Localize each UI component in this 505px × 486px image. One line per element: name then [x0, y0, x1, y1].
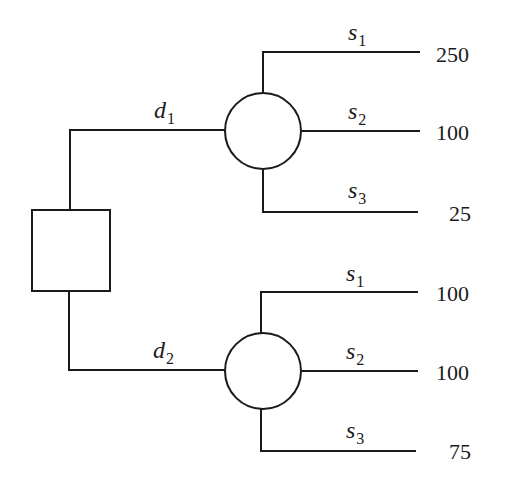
- state-label-2-s1: s1: [346, 261, 364, 285]
- payoff-2-s2: 100: [436, 362, 469, 384]
- state-label-2-s3: s3: [346, 418, 364, 442]
- decision-label-d1: d1: [154, 98, 175, 122]
- state-symbol: s: [346, 417, 355, 443]
- payoff-1-s1: 250: [436, 44, 469, 66]
- outcome-line-2-s3: [261, 409, 416, 451]
- chance-node-1: [225, 93, 301, 169]
- state-index: 1: [356, 273, 364, 290]
- branch-d2-line: [69, 291, 225, 370]
- payoff-2-s3: 75: [449, 441, 471, 463]
- state-label-2-s2: s2: [346, 339, 364, 363]
- decision-symbol: d: [154, 97, 166, 123]
- decision-index: 2: [166, 350, 174, 367]
- state-symbol: s: [346, 260, 355, 286]
- outcome-line-1-s1: [263, 52, 420, 93]
- state-index: 3: [358, 190, 366, 207]
- state-index: 2: [358, 111, 366, 128]
- state-index: 2: [356, 351, 364, 368]
- state-symbol: s: [348, 177, 357, 203]
- decision-index: 1: [167, 110, 175, 127]
- payoff-2-s1: 100: [436, 283, 469, 305]
- branch-d1-line: [70, 130, 225, 210]
- decision-node-square: [32, 210, 110, 291]
- state-symbol: s: [348, 19, 357, 45]
- outcome-line-2-s1: [261, 292, 418, 333]
- decision-label-d2: d2: [153, 338, 174, 362]
- outcome-line-1-s3: [263, 169, 418, 212]
- state-symbol: s: [348, 98, 357, 124]
- payoff-1-s3: 25: [449, 203, 471, 225]
- decision-symbol: d: [153, 337, 165, 363]
- state-label-1-s3: s3: [348, 178, 366, 202]
- state-index: 1: [358, 32, 366, 49]
- chance-node-2: [225, 333, 301, 409]
- state-label-1-s1: s1: [348, 20, 366, 44]
- decision-tree-canvas: [0, 0, 505, 486]
- payoff-1-s2: 100: [436, 122, 469, 144]
- state-index: 3: [356, 430, 364, 447]
- state-symbol: s: [346, 338, 355, 364]
- state-label-1-s2: s2: [348, 99, 366, 123]
